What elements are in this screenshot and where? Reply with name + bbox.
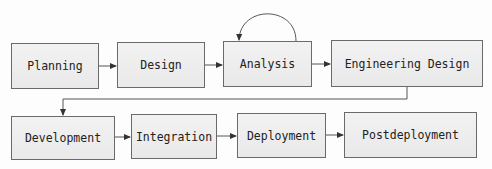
node-design: Design	[117, 42, 205, 88]
node-analysis: Analysis	[223, 41, 312, 87]
node-label: Deployment	[247, 129, 316, 143]
node-label: Analysis	[240, 57, 295, 71]
node-label: Design	[140, 58, 182, 72]
process-flow-diagram: Planning Design Analysis Engineering Des…	[0, 0, 492, 169]
node-planning: Planning	[11, 43, 99, 89]
node-label: Postdeployment	[362, 128, 459, 142]
node-integration: Integration	[131, 114, 217, 159]
edge-analysis-self-loop	[239, 14, 296, 41]
node-label: Engineering Design	[345, 57, 470, 71]
node-postdeployment: Postdeployment	[344, 112, 477, 158]
node-label: Integration	[136, 130, 212, 144]
edge-engineering-development	[63, 87, 407, 115]
node-label: Planning	[27, 59, 82, 73]
node-label: Development	[25, 131, 101, 145]
node-deployment: Deployment	[237, 113, 326, 158]
node-development: Development	[11, 116, 115, 160]
node-engineering-design: Engineering Design	[331, 40, 483, 87]
